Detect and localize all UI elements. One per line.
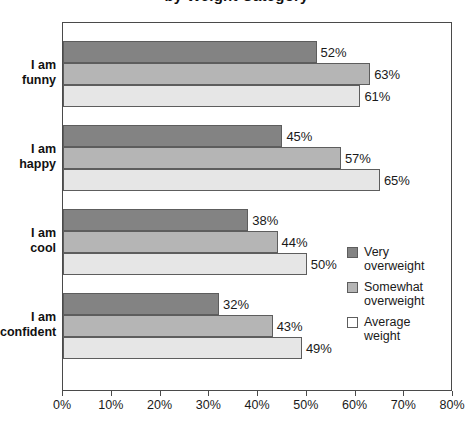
category-label-line: cool (0, 241, 56, 256)
x-axis-tick (306, 391, 307, 396)
category-label-line: funny (0, 73, 56, 88)
legend-label-line: Very (364, 246, 424, 260)
bar[interactable] (63, 253, 307, 275)
category-label-line: happy (0, 157, 56, 172)
legend-label-line: overweight (364, 260, 424, 274)
category-label-line: confident (0, 325, 56, 340)
legend-item[interactable]: Veryoverweight (347, 246, 424, 273)
bar-value-label: 45% (282, 129, 312, 144)
bar[interactable] (63, 337, 302, 359)
bar[interactable] (63, 41, 317, 63)
legend-label: Somewhatoverweight (364, 281, 424, 308)
legend-swatch-icon (347, 282, 358, 293)
legend-swatch-icon (347, 317, 358, 328)
bar[interactable] (63, 147, 341, 169)
x-axis-tick-label: 30% (186, 398, 230, 412)
legend-label-line: Average (364, 316, 424, 330)
category-label-line: I am (0, 226, 56, 241)
bar-value-label: 44% (278, 235, 308, 250)
x-axis-tick-label: 0% (40, 398, 84, 412)
chart-title: by Weight Category (0, 0, 473, 4)
x-axis-tick (403, 391, 404, 396)
bar[interactable] (63, 315, 273, 337)
bar-row: 45% (63, 125, 451, 147)
category-label: I amconfident (0, 310, 56, 340)
bar-value-label: 50% (307, 257, 337, 272)
legend-label-line: weight (364, 330, 424, 344)
bar-row: 38% (63, 209, 451, 231)
category-label-line: I am (0, 142, 56, 157)
x-axis-tick (160, 391, 161, 396)
legend-label-line: Somewhat (364, 281, 424, 295)
x-axis-tick-label: 20% (138, 398, 182, 412)
bar-value-label: 38% (248, 213, 278, 228)
bar[interactable] (63, 169, 380, 191)
bar[interactable] (63, 231, 278, 253)
x-axis-tick-label: 80% (430, 398, 473, 412)
bar[interactable] (63, 125, 282, 147)
x-axis-tick (111, 391, 112, 396)
x-axis-tick-label: 50% (284, 398, 328, 412)
x-axis-tick-label: 70% (381, 398, 425, 412)
x-axis-tick (208, 391, 209, 396)
bar[interactable] (63, 85, 360, 107)
bar-row: 57% (63, 147, 451, 169)
legend-item[interactable]: Somewhatoverweight (347, 281, 424, 308)
category-label: I amcool (0, 226, 56, 256)
legend-label: Veryoverweight (364, 246, 424, 273)
category-label-line: I am (0, 310, 56, 325)
x-axis-tick-label: 40% (235, 398, 279, 412)
bar-row: 65% (63, 169, 451, 191)
x-axis-tick-label: 10% (89, 398, 133, 412)
bar-value-label: 61% (360, 89, 390, 104)
legend-label: Averageweight (364, 316, 424, 343)
bar-value-label: 43% (273, 319, 303, 334)
chart-legend: VeryoverweightSomewhatoverweightAveragew… (347, 246, 424, 351)
category-label-line: I am (0, 58, 56, 73)
bar-value-label: 63% (370, 67, 400, 82)
legend-item[interactable]: Averageweight (347, 316, 424, 343)
bar[interactable] (63, 63, 370, 85)
bar-value-label: 32% (219, 297, 249, 312)
bar-value-label: 57% (341, 151, 371, 166)
bar-value-label: 52% (317, 45, 347, 60)
x-axis-tick (355, 391, 356, 396)
bar-group: 45%57%65% (63, 125, 451, 191)
x-axis-tick-label: 60% (333, 398, 377, 412)
bar[interactable] (63, 293, 219, 315)
bar-row: 52% (63, 41, 451, 63)
x-axis-tick (62, 391, 63, 396)
bar-row: 63% (63, 63, 451, 85)
legend-label-line: overweight (364, 295, 424, 309)
bar[interactable] (63, 209, 248, 231)
x-axis-tick (257, 391, 258, 396)
bar-value-label: 65% (380, 173, 410, 188)
category-label: I amhappy (0, 142, 56, 172)
category-label: I amfunny (0, 58, 56, 88)
bar-value-label: 49% (302, 341, 332, 356)
bar-row: 61% (63, 85, 451, 107)
bar-chart: by Weight Category 52%63%61%45%57%65%38%… (0, 0, 473, 426)
legend-swatch-icon (347, 247, 358, 258)
bar-group: 52%63%61% (63, 41, 451, 107)
x-axis-tick (452, 391, 453, 396)
